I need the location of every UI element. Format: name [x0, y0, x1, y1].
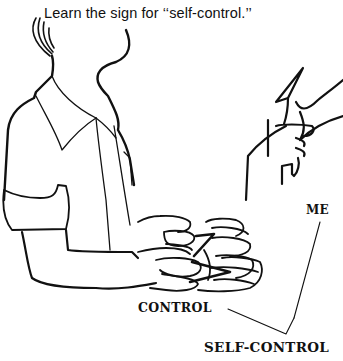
label-leader-lines: [228, 222, 320, 334]
pointing-hand: [246, 68, 343, 200]
sleeve: [3, 185, 69, 230]
label-self-control: SELF-CONTROL: [204, 339, 329, 355]
shirt-collar: [36, 76, 132, 250]
label-control: CONTROL: [138, 300, 212, 315]
body-outline: [4, 30, 134, 200]
instruction-text: Learn the sign for ‘‘self-control.’’: [44, 5, 252, 21]
label-me: ME: [306, 203, 329, 217]
sign-lesson-page: Learn the sign for ‘‘self-control.’’ ME …: [0, 0, 343, 361]
forearm: [22, 230, 156, 289]
hair-strokes: [33, 18, 54, 56]
